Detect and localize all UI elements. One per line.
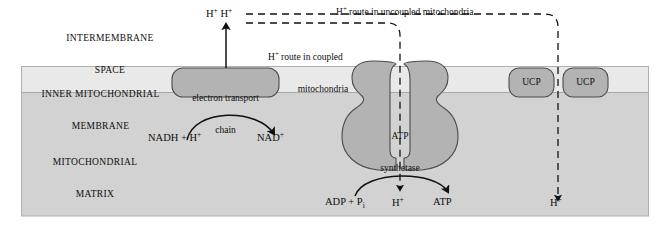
nad-plus-text: NAD xyxy=(257,132,280,143)
mitochondrial-matrix-label: MITOCHONDRIAL MATRIX xyxy=(30,136,160,221)
matrix-label-line1: MITOCHONDRIAL xyxy=(30,157,160,168)
atp-product-label: ATP xyxy=(433,196,452,208)
pumped-proton-second: H xyxy=(220,8,228,19)
nadh-superscript: + xyxy=(197,130,201,139)
synthase-proton-label: H+ xyxy=(392,197,404,209)
etc-label-line1: electron transport xyxy=(172,93,279,104)
matrix-label-line2: MATRIX xyxy=(30,189,160,200)
coupled-route-text-before: H xyxy=(268,52,275,62)
coupled-route-label: H+ route in coupled mitochondria xyxy=(268,31,408,116)
ucp-proton-superscript: + xyxy=(558,195,562,204)
uncoupled-route-label: H+ route in uncoupled mitochondria xyxy=(336,7,576,18)
mitochondrial-proton-route-diagram: INTERMEMBRANE SPACE INNER MITOCHONDRIAL … xyxy=(0,0,669,231)
nad-plus-label: NAD+ xyxy=(257,132,284,144)
adp-pi-text: ADP + P xyxy=(325,196,363,207)
coupled-route-text-after: route in coupled xyxy=(279,52,343,62)
ucp-proton-text: H xyxy=(550,197,558,208)
ucp-right-label: UCP xyxy=(563,77,608,88)
uncoupled-route-text-after: route in uncoupled mitochondria xyxy=(347,7,474,17)
nad-plus-superscript: + xyxy=(280,130,284,139)
ucp-proton-label: H+ xyxy=(550,197,562,209)
adp-pi-subscript: i xyxy=(363,201,365,210)
synthase-proton-text: H xyxy=(392,197,400,208)
nadh-label: NADH + H+ xyxy=(148,132,201,144)
adp-pi-label: ADP + Pi xyxy=(325,196,365,208)
coupled-route-line1: H+ route in coupled xyxy=(268,52,408,63)
synthase-proton-superscript: + xyxy=(400,195,404,204)
pumped-proton-second-superscript: + xyxy=(228,6,232,15)
atp-synthetase-label: ATP synthetase xyxy=(356,110,444,195)
ucp-left-label: UCP xyxy=(509,77,554,88)
inner-membrane-label-line2: MEMBRANE xyxy=(28,121,173,132)
pumped-proton-pair-label: H+ H+ xyxy=(206,8,232,20)
inner-membrane-label-line1: INNER MITOCHONDRIAL xyxy=(28,89,173,100)
pumped-proton-first: H xyxy=(206,8,214,19)
intermembrane-space-label-line1: INTERMEMBRANE xyxy=(40,33,180,44)
electron-transport-chain-label: electron transport chain xyxy=(172,72,279,157)
coupled-route-line2: mitochondria xyxy=(268,84,378,95)
nadh-text: NADH + H xyxy=(148,132,197,143)
atp-synthetase-label-line2: synthetase xyxy=(356,163,444,174)
uncoupled-route-text-before: H xyxy=(336,7,343,17)
atp-synthetase-label-line1: ATP xyxy=(356,131,444,142)
